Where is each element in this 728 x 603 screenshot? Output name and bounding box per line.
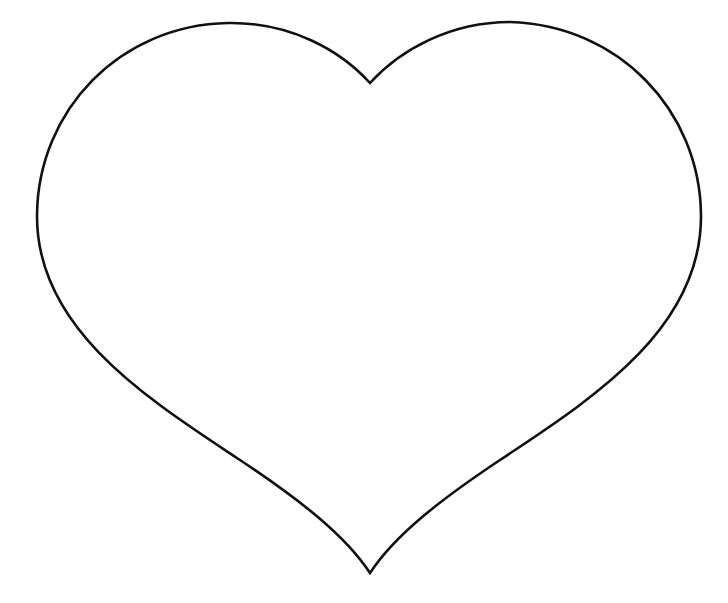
heart-icon bbox=[0, 0, 728, 603]
heart-outline bbox=[37, 22, 701, 573]
heart-canvas bbox=[0, 0, 728, 603]
